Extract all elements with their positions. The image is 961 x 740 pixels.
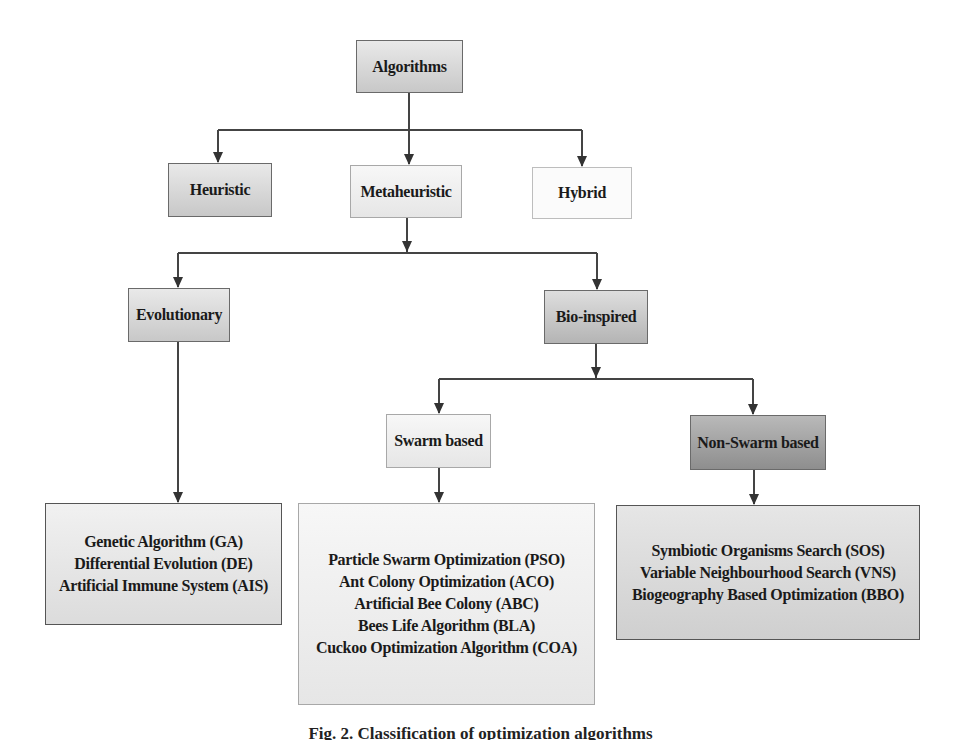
node-label: Evolutionary: [136, 306, 222, 324]
node-hybrid: Hybrid: [532, 167, 632, 219]
node-label: Non-Swarm based: [697, 434, 818, 452]
node-label: Metaheuristic: [360, 183, 451, 201]
node-algorithms: Algorithms: [356, 40, 463, 93]
figure-caption: Fig. 2. Classification of optimization a…: [0, 724, 961, 740]
leaf-item: Particle Swarm Optimization (PSO): [328, 549, 565, 571]
leaf-item: Bees Life Algorithm (BLA): [358, 615, 535, 637]
leaf-item: Symbiotic Organisms Search (SOS): [651, 540, 884, 562]
node-label: Heuristic: [190, 181, 250, 199]
leaf-item: Genetic Algorithm (GA): [84, 531, 243, 553]
node-label: Algorithms: [372, 58, 446, 76]
leaf-box-evolutionary: Genetic Algorithm (GA) Differential Evol…: [45, 503, 282, 625]
node-heuristic: Heuristic: [168, 163, 272, 217]
node-bio-inspired: Bio-inspired: [544, 290, 648, 344]
leaf-item: Variable Neighbourhood Search (VNS): [640, 562, 896, 584]
leaf-item: Differential Evolution (DE): [74, 553, 252, 575]
node-metaheuristic: Metaheuristic: [350, 165, 462, 218]
node-label: Bio-inspired: [556, 308, 637, 326]
leaf-item: Cuckoo Optimization Algorithm (COA): [316, 637, 577, 659]
leaf-item: Artificial Immune System (AIS): [59, 575, 268, 597]
leaf-item: Ant Colony Optimization (ACO): [339, 571, 554, 593]
leaf-box-non-swarm: Symbiotic Organisms Search (SOS) Variabl…: [616, 505, 920, 640]
node-evolutionary: Evolutionary: [128, 288, 230, 342]
leaf-box-swarm: Particle Swarm Optimization (PSO) Ant Co…: [298, 503, 595, 705]
leaf-item: Artificial Bee Colony (ABC): [354, 593, 538, 615]
node-non-swarm-based: Non-Swarm based: [690, 415, 826, 470]
leaf-item: Biogeography Based Optimization (BBO): [632, 584, 904, 606]
node-label: Hybrid: [558, 184, 606, 202]
node-swarm-based: Swarm based: [386, 414, 491, 468]
node-label: Swarm based: [394, 432, 483, 450]
